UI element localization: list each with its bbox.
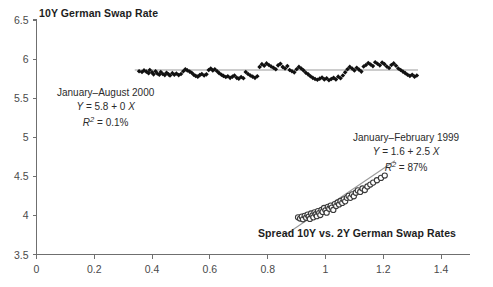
y-tick-label-3.5: 3.5 [0,250,29,261]
annotation-2000-equation: Y = 5.8 + 0 X [57,100,154,114]
plot-title: 10Y German Swap Rate [39,7,158,19]
annotation-2000-eq-rest: = 5.8 + 0 [83,101,128,112]
series-markers-1999 [295,173,387,222]
annotation-1999: January–February 1999 Y = 1.6 + 2.5 X R2… [353,131,459,175]
annotation-2000-r-value: = 0.1% [94,117,128,128]
y-tick-label-4.5: 4.5 [0,171,29,182]
annotation-2000-r-symbol: R [83,117,90,128]
y-tick-label-4: 4 [0,210,29,221]
annotation-1999-r-squared: R2 = 87% [353,158,459,175]
x-tick-label-0.8: 0.8 [248,264,288,275]
x-axis-title: Spread 10Y vs. 2Y German Swap Rates [258,227,456,239]
y-tick-label-5.5: 5.5 [0,93,29,104]
annotation-2000-r-squared: R2 = 0.1% [57,113,154,130]
x-tick-label-1.2: 1.2 [363,264,403,275]
annotation-1999-eq-x: X [433,146,440,157]
annotation-2000-period: January–August 2000 [57,86,154,100]
x-tick-label-0.2: 0.2 [74,264,114,275]
annotation-1999-r-symbol: R [385,162,392,173]
annotation-1999-period: January–February 1999 [353,131,459,145]
annotation-1999-r-value: = 87% [396,162,427,173]
y-axis-ticks [33,20,37,255]
annotation-2000-eq-x: X [128,101,135,112]
y-tick-label-6.5: 6.5 [0,15,29,26]
annotation-1999-equation: Y = 1.6 + 2.5 X [353,145,459,159]
annotation-1999-eq-rest: = 1.6 + 2.5 [379,146,432,157]
x-tick-label-1.4: 1.4 [421,264,461,275]
x-tick-label-0.4: 0.4 [132,264,172,275]
y-tick-label-6: 6 [0,54,29,65]
annotation-2000: January–August 2000 Y = 5.8 + 0 X R2 = 0… [57,86,154,130]
x-axis-ticks [37,255,442,259]
x-tick-label-0: 0 [17,264,57,275]
x-tick-label-1: 1 [306,264,346,275]
x-tick-label-0.6: 0.6 [190,264,230,275]
y-tick-label-5: 5 [0,132,29,143]
series-markers-2000 [137,60,419,83]
scatter-plot-figure: 10Y German Swap Rate Spread 10Y vs. 2Y G… [0,0,493,287]
